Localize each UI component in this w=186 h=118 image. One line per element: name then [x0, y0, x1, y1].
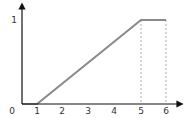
x-tick-6: 6 — [163, 106, 169, 116]
x-tick-2: 2 — [59, 106, 65, 116]
data-series-line — [22, 20, 166, 104]
x-tick-3: 3 — [85, 106, 91, 116]
x-tick-1: 1 — [34, 106, 40, 116]
chart: 0 1 2 3 4 5 6 1 — [0, 0, 186, 118]
x-tick-4: 4 — [111, 106, 117, 116]
origin-label: 0 — [9, 106, 15, 116]
x-tick-5: 5 — [138, 106, 144, 116]
y-tick-1: 1 — [11, 15, 17, 25]
